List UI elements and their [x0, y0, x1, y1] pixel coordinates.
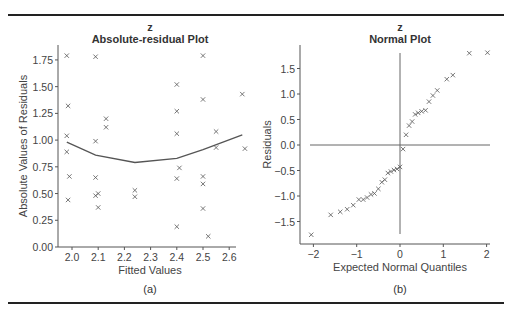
y-tick-label: −1.0 — [274, 190, 295, 202]
data-point-marker — [65, 150, 69, 154]
data-point-marker — [96, 191, 100, 195]
y-axis-label: Residuals — [261, 120, 273, 169]
data-point-marker — [175, 176, 179, 180]
data-point-marker — [96, 205, 100, 209]
data-point-marker — [93, 55, 97, 59]
normal-plot: zNormal Plot−2−1012−1.5−1.0−0.50.00.51.0… — [261, 21, 490, 295]
data-point-marker — [104, 125, 108, 129]
plot-supertitle: z — [397, 21, 403, 33]
data-point-marker — [427, 99, 431, 103]
data-point-marker — [445, 77, 449, 81]
y-tick-label: 1.0 — [280, 88, 295, 100]
y-tick-label: 1.00 — [33, 134, 54, 146]
y-tick-label: −0.5 — [274, 165, 295, 177]
data-point-marker — [206, 234, 210, 238]
x-axis-label: Expected Normal Quantiles — [333, 261, 467, 273]
y-tick-label: −1.5 — [274, 216, 295, 228]
data-point-marker — [369, 192, 373, 196]
data-point-marker — [467, 51, 471, 55]
data-point-marker — [383, 177, 387, 181]
data-point-marker — [372, 191, 376, 195]
data-point-marker — [93, 139, 97, 143]
data-point-marker — [345, 207, 349, 211]
smooth-trend-line — [67, 135, 243, 163]
data-point-marker — [201, 53, 205, 57]
y-tick-label: 0.0 — [280, 139, 295, 151]
data-point-marker — [66, 104, 70, 108]
data-point-marker — [133, 188, 137, 192]
x-tick-label: 2.4 — [169, 251, 184, 263]
y-tick-label: 1.50 — [33, 81, 54, 93]
y-tick-label: 0.50 — [33, 188, 54, 200]
x-tick-label: 2.0 — [65, 251, 80, 263]
y-tick-label: 1.25 — [33, 107, 54, 119]
data-point-marker — [423, 108, 427, 112]
y-tick-label: 0.00 — [33, 241, 54, 253]
plot-supertitle: z — [147, 21, 153, 33]
data-point-marker — [329, 213, 333, 217]
data-point-marker — [104, 117, 108, 121]
panel-caption: (b) — [393, 283, 406, 295]
data-point-marker — [485, 50, 489, 54]
data-point-marker — [407, 123, 411, 127]
data-point-marker — [175, 224, 179, 228]
y-axis-label: Absolute Values of Residuals — [17, 74, 29, 217]
x-tick-label: −2 — [307, 248, 319, 260]
data-point-marker — [133, 195, 137, 199]
data-point-marker — [214, 145, 218, 149]
absolute-residual-plot: zAbsolute-residual Plot2.02.12.22.32.42.… — [17, 21, 247, 295]
x-axis-label: Fitted Values — [118, 264, 182, 276]
data-point-marker — [351, 203, 355, 207]
y-tick-label: 0.75 — [33, 161, 54, 173]
data-point-marker — [175, 109, 179, 113]
data-point-marker — [67, 174, 71, 178]
data-point-marker — [240, 92, 244, 96]
y-tick-label: 1.5 — [280, 63, 295, 75]
x-tick-label: 2.2 — [117, 251, 132, 263]
data-point-marker — [309, 233, 313, 237]
data-point-marker — [243, 146, 247, 150]
data-point-marker — [65, 53, 69, 57]
data-point-marker — [65, 134, 69, 138]
data-point-marker — [175, 82, 179, 86]
y-tick-label: 0.5 — [280, 114, 295, 126]
data-point-marker — [201, 206, 205, 210]
y-tick-label: 0.25 — [33, 214, 54, 226]
data-point-marker — [66, 198, 70, 202]
panel-caption: (a) — [143, 283, 156, 295]
data-point-marker — [201, 174, 205, 178]
x-tick-label: 2.1 — [91, 251, 106, 263]
data-point-marker — [401, 147, 405, 151]
data-point-marker — [410, 119, 414, 123]
data-point-marker — [93, 175, 97, 179]
x-tick-label: 1 — [440, 248, 446, 260]
x-tick-label: 0 — [397, 248, 403, 260]
data-point-marker — [177, 166, 181, 170]
data-point-marker — [201, 97, 205, 101]
x-tick-label: 2.3 — [143, 251, 158, 263]
data-point-marker — [451, 73, 455, 77]
data-point-marker — [404, 133, 408, 137]
x-tick-label: 2 — [484, 248, 490, 260]
plot-title: Normal Plot — [369, 33, 431, 45]
figure: zAbsolute-residual Plot2.02.12.22.32.42.… — [0, 0, 514, 316]
data-point-marker — [338, 210, 342, 214]
data-point-marker — [431, 93, 435, 97]
data-point-marker — [201, 182, 205, 186]
data-point-marker — [214, 129, 218, 133]
x-tick-label: −1 — [351, 248, 363, 260]
plot-title: Absolute-residual Plot — [92, 33, 209, 45]
x-tick-label: 2.5 — [196, 251, 211, 263]
data-point-marker — [357, 197, 361, 201]
data-point-marker — [175, 131, 179, 135]
data-point-marker — [376, 187, 380, 191]
y-tick-label: 1.75 — [33, 54, 54, 66]
x-tick-label: 2.6 — [222, 251, 237, 263]
data-point-marker — [435, 88, 439, 92]
